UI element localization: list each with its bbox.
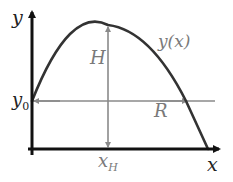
trajectory-diagram: y x y0 H y(x) R xH [0,0,233,182]
y-axis-label: y [11,6,23,28]
curve-label: y(x) [157,31,190,51]
range-label: R [153,100,168,121]
y0-label: y0 [11,89,29,113]
xH-label: xH [98,150,118,174]
height-label: H [89,47,106,68]
x-axis-label: x [207,153,218,175]
